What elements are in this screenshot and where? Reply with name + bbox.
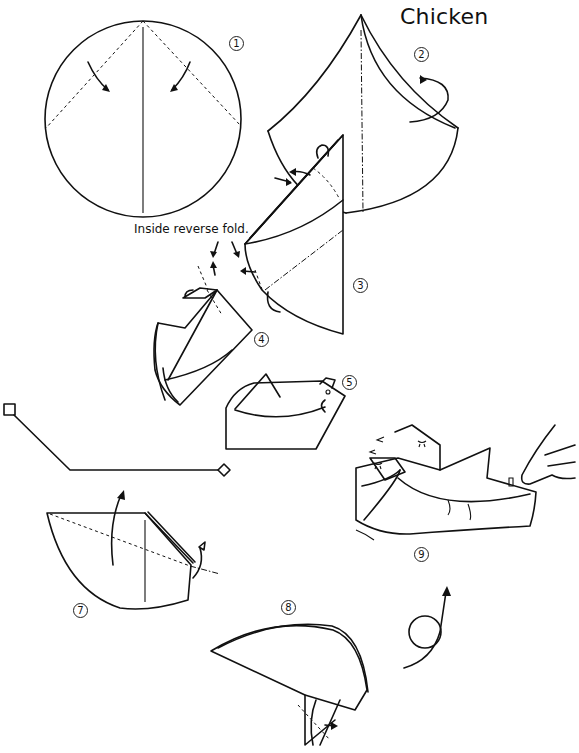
origami-diagram: Chicken Inside reverse fold. 1 2 3 4 5 7… bbox=[0, 0, 579, 753]
step-9-figure bbox=[356, 425, 575, 540]
step-1-figure bbox=[45, 21, 241, 217]
step-2-figure bbox=[268, 15, 458, 213]
step-6-figure bbox=[4, 404, 230, 476]
step-5-figure bbox=[226, 374, 345, 449]
reverse-fold-arrows bbox=[210, 242, 240, 275]
step-4-figure bbox=[154, 266, 252, 405]
rotate-arrow-icon bbox=[404, 586, 451, 668]
diagram-drawings bbox=[0, 0, 579, 753]
step-7-figure bbox=[47, 490, 220, 609]
step-8-figure bbox=[211, 624, 368, 745]
step-3-figure bbox=[240, 135, 343, 334]
